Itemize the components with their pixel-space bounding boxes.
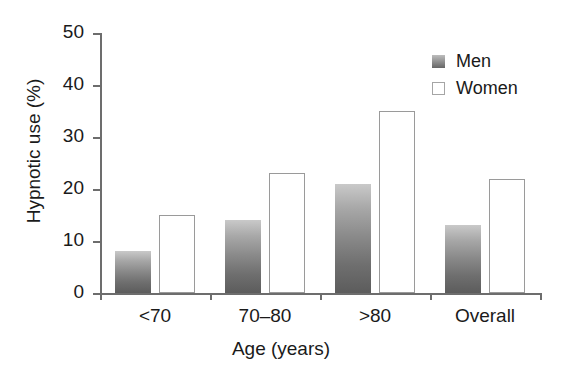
y-axis-tick: 10	[93, 241, 100, 243]
bar-women-1	[269, 173, 305, 293]
legend-item-men: Men	[432, 48, 518, 75]
bar-men-2	[335, 184, 371, 293]
y-axis-tick-label: 10	[63, 229, 84, 251]
x-axis-category-label: <70	[139, 305, 171, 327]
bar-men-0	[115, 251, 151, 293]
x-axis-category-label: 70–80	[239, 305, 292, 327]
legend-label: Women	[456, 78, 518, 99]
bar-men-1	[225, 220, 261, 293]
y-axis-tick-label: 20	[63, 177, 84, 199]
x-axis-category-label: >80	[359, 305, 391, 327]
x-axis-title: Age (years)	[0, 338, 562, 360]
bar-chart-figure: Hypnotic use (%) Age (years) 01020304050…	[0, 0, 562, 375]
y-axis-tick: 50	[93, 33, 100, 35]
x-axis-tick	[430, 293, 432, 300]
x-axis-category-label: Overall	[455, 305, 515, 327]
bar-women-0	[159, 215, 195, 293]
x-axis-tick	[100, 293, 102, 300]
x-axis-tick	[320, 293, 322, 300]
y-axis-line	[100, 33, 102, 293]
y-axis-tick: 0	[93, 293, 100, 295]
bar-women-3	[489, 179, 525, 293]
x-axis-tick	[210, 293, 212, 300]
y-axis-title: Hypnotic use (%)	[23, 21, 45, 281]
bar-women-2	[379, 111, 415, 293]
y-axis-tick-label: 40	[63, 73, 84, 95]
y-axis-tick-label: 30	[63, 125, 84, 147]
legend-item-women: Women	[432, 75, 518, 102]
y-axis-tick: 40	[93, 85, 100, 87]
bar-men-3	[445, 225, 481, 293]
legend-label: Men	[456, 51, 491, 72]
chart-legend: MenWomen	[432, 48, 518, 102]
y-axis-tick-label: 50	[63, 21, 84, 43]
y-axis-tick: 20	[93, 189, 100, 191]
filled-gradient-swatch	[432, 55, 445, 68]
open-white-swatch	[432, 82, 445, 95]
y-axis-tick: 30	[93, 137, 100, 139]
y-axis-tick-label: 0	[73, 281, 84, 303]
x-axis-tick	[540, 293, 542, 300]
